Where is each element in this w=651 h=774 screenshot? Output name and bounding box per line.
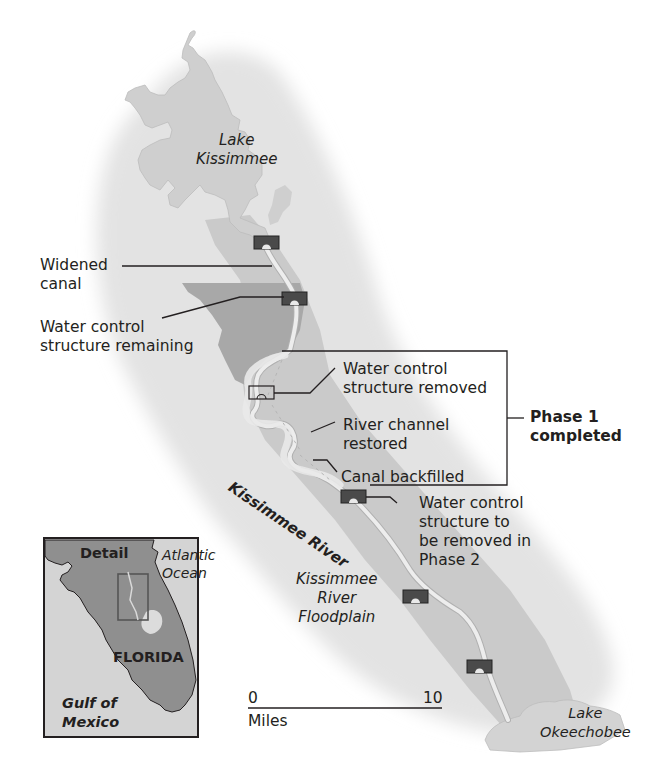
lake-okeechobee-label: Lake Okeechobee xyxy=(540,704,631,742)
widened-canal-label: Widened canal xyxy=(40,256,108,294)
river-channel-restored-label: River channel restored xyxy=(343,416,449,454)
scale-unit: Miles xyxy=(248,712,288,731)
canal-backfilled-label: Canal backfilled xyxy=(341,468,464,487)
map-canvas xyxy=(0,0,651,774)
inset-gulf-label: Gulf of Mexico xyxy=(62,694,119,732)
phase1-label: Phase 1 completed xyxy=(530,408,622,446)
structure-icon xyxy=(282,292,307,305)
water-control-phase2-label: Water control structure to be removed in… xyxy=(419,494,531,570)
inset-florida-label: FLORIDA xyxy=(113,648,184,667)
inset-detail-label: Detail xyxy=(80,544,129,563)
structure-icon xyxy=(403,590,428,603)
scale-end: 10 xyxy=(423,689,443,708)
structure-icon xyxy=(341,490,366,503)
water-control-removed-label: Water control structure removed xyxy=(343,360,487,398)
water-control-remaining-label: Water control structure remaining xyxy=(40,318,194,356)
floodplain-label: Kissimmee River Floodplain xyxy=(296,570,377,627)
structure-icon xyxy=(467,660,492,673)
scale-start: 0 xyxy=(248,689,258,708)
inset-atlantic-label: Atlantic Ocean xyxy=(162,546,215,582)
structure-icon xyxy=(254,236,279,249)
lake-kissimmee-label: Lake Kissimmee xyxy=(196,131,277,169)
